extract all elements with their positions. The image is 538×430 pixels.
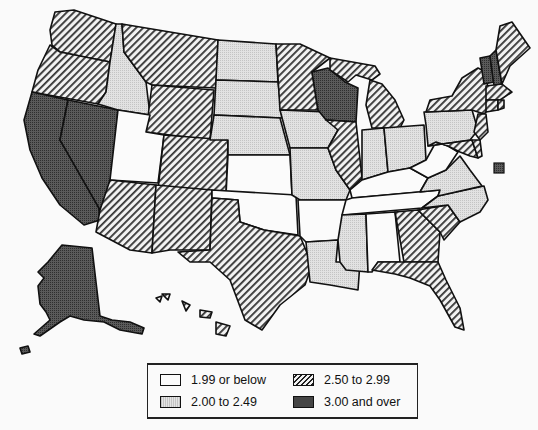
state-north-dakota <box>216 40 278 82</box>
state-maine <box>496 22 530 84</box>
legend-item-2: 2.00 to 2.49 <box>160 395 257 409</box>
state-connecticut <box>486 100 498 112</box>
state-new-york <box>426 68 490 114</box>
state-mississippi <box>338 214 368 272</box>
state-alaska <box>34 245 144 336</box>
legend-label-1: 1.99 or below <box>191 373 266 387</box>
state-rhode-island <box>498 100 504 110</box>
state-dc-marker <box>494 163 504 173</box>
state-michigan-lower <box>366 80 404 128</box>
swatch-4 <box>293 396 314 408</box>
swatch-1 <box>160 374 181 386</box>
state-south-dakota <box>214 80 282 118</box>
legend-label-3: 2.50 to 2.99 <box>324 373 390 387</box>
state-kansas <box>226 155 292 195</box>
legend-item-3: 2.50 to 2.99 <box>293 373 390 387</box>
legend-label-2: 2.00 to 2.49 <box>191 395 257 409</box>
state-new-mexico <box>152 185 212 253</box>
legend-item-1: 1.99 or below <box>160 373 266 387</box>
state-florida <box>372 262 464 330</box>
alaska-aleutian-islands <box>20 346 30 354</box>
state-wyoming <box>146 85 214 140</box>
swatch-2 <box>160 396 181 408</box>
legend: 1.99 or below 2.00 to 2.49 2.50 to 2.99 … <box>147 363 418 419</box>
legend-item-4: 3.00 and over <box>293 395 400 409</box>
us-choropleth-map <box>0 0 538 360</box>
state-massachusetts <box>486 84 512 100</box>
swatch-3 <box>293 374 314 386</box>
state-new-jersey <box>474 114 488 140</box>
legend-label-4: 3.00 and over <box>324 395 400 409</box>
state-hawaii <box>156 294 230 336</box>
